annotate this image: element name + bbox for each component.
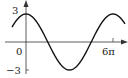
x-axis-arrow-icon [121,40,128,45]
y-min-label: −3 [6,65,21,76]
y-axis-arrow-icon [24,0,29,7]
cosine-graph: 3 0 −3 6π [0,0,128,78]
y-max-label: 3 [12,5,18,16]
x-max-label: 6π [102,46,115,57]
origin-label: 0 [16,46,22,57]
